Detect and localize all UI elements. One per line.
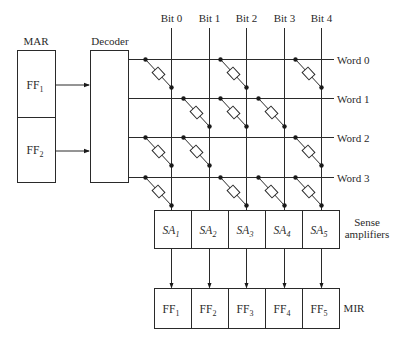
word-label-3: Word 3 xyxy=(337,172,370,184)
diode-w3-b2 xyxy=(218,175,248,207)
bit-label-2: Bit 2 xyxy=(236,12,258,24)
decoder-label: Decoder xyxy=(91,35,129,47)
bit-lines: Bit 0Bit 1Bit 2Bit 3Bit 4 xyxy=(161,12,333,210)
diode-w2-b1 xyxy=(181,135,211,167)
sense-label-line1: Sense xyxy=(354,216,380,228)
mar-register: MAR FF1 FF2 xyxy=(18,35,56,183)
diode-w0-b4 xyxy=(293,57,323,89)
diode-w1-b2 xyxy=(218,96,248,128)
diode-matrix xyxy=(143,57,323,207)
sense-label-line2: amplifiers xyxy=(345,228,390,240)
sense-amplifiers: Sense amplifiers SA1SA2SA3SA4SA5 xyxy=(155,211,390,288)
bit-label-1: Bit 1 xyxy=(199,12,221,24)
decoder-box xyxy=(91,51,129,183)
diode-w3-b3 xyxy=(256,175,286,207)
diode-w2-b0 xyxy=(143,135,173,167)
rom-diagram: MAR FF1 FF2 Decoder Bit 0Bit 1Bit 2Bit 3… xyxy=(0,0,395,345)
mar-box xyxy=(18,51,56,183)
diode-w1-b3 xyxy=(256,96,286,128)
diode-w3-b0 xyxy=(143,175,173,207)
word-label-1: Word 1 xyxy=(337,93,369,105)
word-label-2: Word 2 xyxy=(337,132,369,144)
diode-w2-b4 xyxy=(293,135,323,167)
mir-label: MIR xyxy=(344,302,365,314)
diode-w1-b1 xyxy=(181,96,211,128)
word-lines: Word 0Word 1Word 2Word 3 xyxy=(129,54,370,184)
word-label-0: Word 0 xyxy=(337,54,370,66)
diode-w0-b0 xyxy=(143,57,173,89)
mar-label: MAR xyxy=(23,35,49,47)
diode-w0-b2 xyxy=(218,57,248,89)
bit-label-3: Bit 3 xyxy=(274,12,296,24)
decoder: Decoder xyxy=(91,35,129,183)
diode-w3-b4 xyxy=(293,175,323,207)
bit-label-0: Bit 0 xyxy=(161,12,183,24)
mir-register: MIR FF1FF2FF3FF4FF5 xyxy=(155,289,366,329)
bit-label-4: Bit 4 xyxy=(311,12,333,24)
